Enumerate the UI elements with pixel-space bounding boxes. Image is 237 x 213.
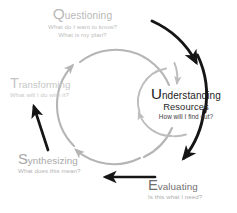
node-synthesizing-capital: S <box>18 151 28 167</box>
node-questioning-title: Questioning <box>0 6 165 22</box>
node-synthesizing: Synthesizing What does this mean? <box>18 152 81 175</box>
node-center-title: Understanding <box>138 86 234 101</box>
node-synthesizing-title-rest: ynthesizing <box>28 155 78 166</box>
node-transforming-title-rest: ransforming <box>19 79 71 90</box>
node-questioning-title-rest: uestioning <box>65 10 112 21</box>
node-evaluating-title: Evaluating <box>148 178 202 193</box>
node-center-question: How will I find out? <box>138 114 234 120</box>
node-synthesizing-question: What does this mean? <box>18 168 81 174</box>
inner-arrow-into-center <box>175 63 178 83</box>
node-questioning: Questioning What do I want to know?What … <box>0 6 165 39</box>
node-questioning-question: What do I want to know?What is my plan? <box>0 23 165 39</box>
node-questioning-capital: Q <box>53 5 65 22</box>
middle-arc-bottom-left <box>76 150 140 164</box>
node-center-title-line2: Resources <box>138 102 234 111</box>
node-evaluating-title-rest: valuating <box>158 181 198 192</box>
node-center-title-rest: nderstanding <box>162 90 221 101</box>
node-center-capital: U <box>151 85 162 102</box>
node-synthesizing-title: Synthesizing <box>18 152 81 167</box>
inquiry-cycle-diagram: Questioning What do I want to know?What … <box>0 0 237 213</box>
node-transforming-title: Transforming <box>10 76 70 91</box>
node-evaluating: Evaluating Is this what I need? <box>148 178 202 201</box>
outer-arrow-to-transforming <box>34 107 48 150</box>
middle-arc-top <box>80 50 169 85</box>
node-evaluating-question: Is this what I need? <box>148 194 202 200</box>
inner-arc-bottom-right <box>174 135 186 137</box>
node-understanding-resources: Understanding Resources How will I find … <box>138 86 234 120</box>
node-transforming: Transforming What will I do with it? <box>10 76 70 98</box>
node-evaluating-capital: E <box>148 177 158 193</box>
node-questioning-question-line1: What do I want to know? <box>48 23 117 30</box>
middle-arc-bottom-right <box>144 128 172 157</box>
node-questioning-question-line2: What is my plan? <box>58 31 106 38</box>
node-transforming-question: What will I do with it? <box>10 92 70 98</box>
node-transforming-capital: T <box>10 75 19 91</box>
